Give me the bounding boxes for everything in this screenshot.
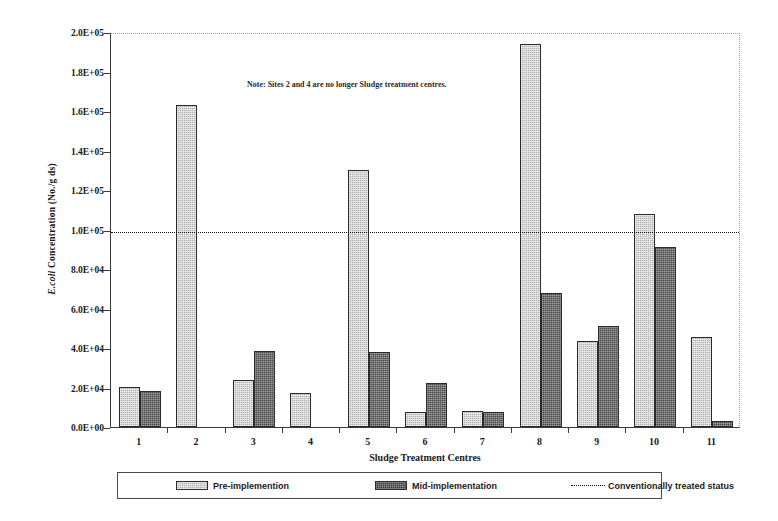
bar-pre-site-1 xyxy=(119,387,140,427)
y-tick-label: 8.0E+04 xyxy=(42,265,104,275)
y-tick-label: 1.6E+05 xyxy=(42,107,104,117)
bar-mid-site-7 xyxy=(483,412,504,427)
legend-label-pre: Pre-implemention xyxy=(213,481,289,491)
x-tick-mark xyxy=(282,428,283,433)
bar-pre-site-10 xyxy=(634,214,655,427)
legend-label-mid: Mid-implementation xyxy=(412,481,497,491)
x-tick-mark xyxy=(396,428,397,433)
x-tick-mark xyxy=(339,428,340,433)
legend-swatch-pre-icon xyxy=(176,481,208,490)
y-tick-label: 6.0E+04 xyxy=(42,305,104,315)
y-tick-label: 2.0E+05 xyxy=(42,28,104,38)
y-tick-label: 0.0E+00 xyxy=(42,423,104,433)
x-tick-label-8: 8 xyxy=(520,436,560,447)
bar-mid-site-5 xyxy=(369,352,390,427)
y-tick-label: 1.8E+05 xyxy=(42,68,104,78)
bar-mid-site-3 xyxy=(254,351,275,427)
y-tick-label: 4.0E+04 xyxy=(42,344,104,354)
legend-item-mid-implementation: Mid-implementation xyxy=(375,481,497,491)
bar-pre-site-3 xyxy=(233,380,254,427)
bar-pre-site-8 xyxy=(520,44,541,427)
legend-swatch-threshold-icon xyxy=(571,485,605,486)
y-tick-label: 2.0E+04 xyxy=(42,384,104,394)
y-axis-title-rest: Concentration (No./g ds) xyxy=(47,163,57,270)
x-tick-mark xyxy=(568,428,569,433)
x-tick-mark xyxy=(225,428,226,433)
legend-item-conventional-status: Conventionally treated status xyxy=(571,481,734,491)
plot-area: Note: Sites 2 and 4 are no longer Sludge… xyxy=(110,33,740,428)
x-tick-label-6: 6 xyxy=(405,436,445,447)
y-tick-label: 1.4E+05 xyxy=(42,147,104,157)
x-tick-mark xyxy=(167,428,168,433)
chart-figure: E.coli Concentration (No./g ds) 0.0E+002… xyxy=(0,0,778,521)
x-tick-label-9: 9 xyxy=(577,436,617,447)
bar-pre-site-4 xyxy=(290,393,311,427)
x-tick-label-5: 5 xyxy=(348,436,388,447)
legend-label-threshold: Conventionally treated status xyxy=(608,481,734,491)
x-tick-label-3: 3 xyxy=(233,436,273,447)
bar-pre-site-6 xyxy=(405,412,426,427)
bar-mid-site-8 xyxy=(541,293,562,427)
bar-mid-site-10 xyxy=(655,247,676,427)
x-tick-label-11: 11 xyxy=(691,436,731,447)
x-tick-label-4: 4 xyxy=(290,436,330,447)
legend-swatch-mid-icon xyxy=(375,481,407,490)
x-tick-label-1: 1 xyxy=(119,436,159,447)
chart-legend: Pre-implemention Mid-implementation Conv… xyxy=(117,472,662,499)
bar-pre-site-7 xyxy=(462,411,483,427)
x-tick-label-10: 10 xyxy=(634,436,674,447)
bar-pre-site-5 xyxy=(348,170,369,427)
threshold-line xyxy=(111,232,739,233)
x-tick-label-2: 2 xyxy=(176,436,216,447)
bar-mid-site-1 xyxy=(140,391,161,427)
x-tick-label-7: 7 xyxy=(462,436,502,447)
bar-pre-site-11 xyxy=(691,337,712,427)
chart-note: Note: Sites 2 and 4 are no longer Sludge… xyxy=(247,80,447,89)
bar-pre-site-2 xyxy=(176,105,197,427)
y-tick-label: 1.2E+05 xyxy=(42,186,104,196)
bar-mid-site-11 xyxy=(712,421,733,427)
x-tick-mark xyxy=(683,428,684,433)
y-tick-mark xyxy=(104,428,110,429)
x-axis-title: Sludge Treatment Centres xyxy=(110,452,740,463)
legend-item-pre-implemention: Pre-implemention xyxy=(176,481,289,491)
bar-mid-site-9 xyxy=(598,326,619,427)
x-tick-mark xyxy=(625,428,626,433)
x-tick-mark xyxy=(511,428,512,433)
x-tick-mark xyxy=(454,428,455,433)
y-tick-label: 1.0E+05 xyxy=(42,226,104,236)
bar-pre-site-9 xyxy=(577,341,598,427)
bar-mid-site-6 xyxy=(426,383,447,427)
